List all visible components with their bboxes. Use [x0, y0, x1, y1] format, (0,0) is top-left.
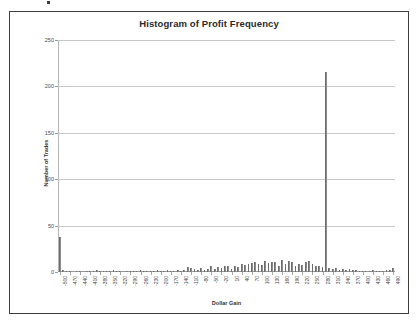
x-tick-mark	[373, 272, 374, 275]
histogram-bar	[261, 265, 263, 272]
x-tick-mark	[100, 272, 101, 275]
histogram-bar	[268, 263, 270, 272]
x-tick-mark	[141, 272, 142, 275]
x-tick-mark	[120, 272, 121, 275]
histogram-bar	[278, 266, 280, 272]
plot-inner: 050100150200250 -500-470-440-410-380-350…	[58, 40, 395, 272]
x-tick-mark	[272, 272, 273, 275]
histogram-bar	[197, 270, 199, 272]
y-tick-label: 200	[45, 83, 54, 89]
x-tick-label: -470	[72, 276, 78, 286]
histogram-bar	[355, 270, 357, 272]
x-tick-mark	[312, 272, 313, 275]
histogram-bar	[143, 271, 145, 272]
x-tick-label: -440	[82, 276, 88, 286]
x-tick-label: 130	[274, 276, 280, 284]
x-tick-mark	[302, 272, 303, 275]
x-tick-mark	[323, 272, 324, 275]
x-tick-mark	[242, 272, 243, 275]
x-tick-mark	[221, 272, 222, 275]
histogram-bar	[234, 266, 236, 272]
x-tick-mark	[60, 272, 61, 275]
histogram-bar	[62, 270, 64, 272]
x-tick-label: -50	[213, 276, 219, 283]
histogram-bar	[369, 271, 371, 272]
x-tick-label: 310	[335, 276, 341, 284]
histogram-bar	[224, 266, 226, 272]
x-tick-label: 220	[304, 276, 310, 284]
histogram-bar	[227, 266, 229, 272]
histogram-bar	[386, 270, 388, 272]
x-tick-mark	[130, 272, 131, 275]
y-tick-label: 100	[45, 176, 54, 182]
chart-container: Histogram of Profit Frequency Number of …	[9, 11, 409, 314]
histogram-bars	[58, 40, 395, 272]
histogram-bar	[241, 264, 243, 272]
histogram-bar	[153, 271, 155, 272]
chart-title: Histogram of Profit Frequency	[10, 18, 408, 29]
x-tick-label: 340	[345, 276, 351, 284]
x-tick-label: 40	[244, 276, 250, 282]
histogram-bar	[295, 266, 297, 272]
x-tick-mark	[171, 272, 172, 275]
histogram-bar	[254, 262, 256, 272]
histogram-bar	[312, 264, 314, 272]
y-tick-label: 250	[45, 37, 54, 43]
histogram-bar	[308, 261, 310, 272]
x-tick-mark	[343, 272, 344, 275]
y-tick-mark	[55, 272, 58, 273]
x-tick-label: -500	[62, 276, 68, 286]
histogram-bar	[113, 270, 115, 272]
histogram-bar	[248, 264, 250, 272]
x-tick-label: -230	[153, 276, 159, 286]
y-tick-label: 0	[51, 269, 54, 275]
x-tick-mark	[252, 272, 253, 275]
x-tick-label: 370	[355, 276, 361, 284]
x-tick-mark	[232, 272, 233, 275]
histogram-bar	[288, 261, 290, 272]
histogram-bar	[167, 270, 169, 272]
x-tick-label: -320	[122, 276, 128, 286]
histogram-bar	[335, 268, 337, 272]
histogram-bar	[251, 263, 253, 272]
x-tick-label: -290	[132, 276, 138, 286]
screenshot-root: Histogram of Profit Frequency Number of …	[0, 0, 417, 323]
histogram-bar	[106, 271, 108, 272]
histogram-bar	[376, 271, 378, 272]
x-tick-mark	[151, 272, 152, 275]
histogram-bar	[217, 267, 219, 272]
page-artifact-mark	[47, 1, 50, 4]
x-tick-label: -200	[163, 276, 169, 286]
histogram-bar	[389, 270, 391, 272]
histogram-bar	[66, 271, 68, 272]
x-tick-label: 280	[325, 276, 331, 284]
x-tick-mark	[211, 272, 212, 275]
histogram-bar	[359, 271, 361, 272]
histogram-bar	[305, 262, 307, 272]
x-tick-label: 400	[365, 276, 371, 284]
x-tick-mark	[282, 272, 283, 275]
histogram-bar	[281, 260, 283, 272]
x-tick-label: -140	[183, 276, 189, 286]
histogram-bar	[271, 262, 273, 272]
x-tick-mark	[201, 272, 202, 275]
histogram-bar	[146, 271, 148, 272]
x-tick-label: 100	[264, 276, 270, 284]
x-tick-mark	[191, 272, 192, 275]
histogram-bar	[59, 237, 61, 272]
x-tick-label: 70	[254, 276, 260, 282]
histogram-bar	[177, 270, 179, 272]
histogram-bar	[237, 267, 239, 272]
histogram-bar	[328, 268, 330, 272]
histogram-bar	[258, 264, 260, 272]
histogram-bar	[157, 270, 159, 272]
histogram-bar	[379, 271, 381, 272]
histogram-bar	[173, 271, 175, 272]
histogram-bar	[96, 270, 98, 272]
histogram-bar	[285, 264, 287, 272]
histogram-bar	[187, 267, 189, 272]
histogram-bar	[345, 270, 347, 272]
x-tick-label: 10	[234, 276, 240, 282]
x-tick-label: -260	[143, 276, 149, 286]
histogram-bar	[93, 271, 95, 272]
